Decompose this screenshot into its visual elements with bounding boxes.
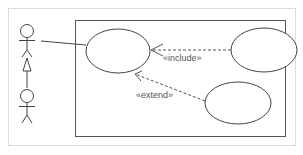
use-case-2[interactable] [231,28,297,72]
use-case-diagram [0,0,303,155]
extend-label: «extend» [136,91,173,100]
include-label: «include» [163,54,202,63]
use-case-1[interactable] [86,29,150,73]
use-case-3[interactable] [205,82,271,124]
